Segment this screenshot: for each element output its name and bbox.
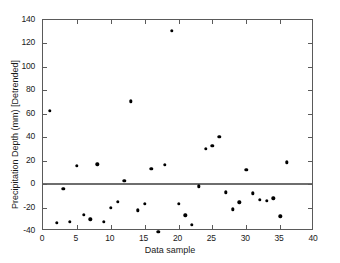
data-point: [184, 213, 187, 216]
data-point: [163, 163, 166, 166]
y-axis-tick: [43, 184, 47, 185]
x-axis-tick-label: 5: [74, 233, 79, 243]
data-point: [150, 167, 153, 170]
data-point: [75, 164, 78, 167]
data-point: [204, 147, 207, 150]
y-axis-tick-label: 120: [21, 37, 35, 47]
y-axis-tick-label: -20: [23, 202, 35, 212]
data-point: [231, 208, 234, 211]
y-axis-tick-label: 60: [26, 108, 35, 118]
data-point: [82, 213, 85, 216]
x-axis-tick-top: [145, 20, 146, 24]
x-axis-tick: [179, 225, 180, 229]
x-axis-tick: [77, 225, 78, 229]
y-axis-tick: [43, 208, 47, 209]
y-axis-tick-right: [308, 137, 312, 138]
x-axis-tick-label: 35: [275, 233, 284, 243]
y-axis-tick: [43, 137, 47, 138]
x-axis-tick: [280, 225, 281, 229]
y-axis-tick-right: [308, 43, 312, 44]
y-axis-tick: [43, 90, 47, 91]
data-point: [258, 198, 261, 201]
y-axis-tick-right: [308, 184, 312, 185]
x-axis-tick-top: [111, 20, 112, 24]
data-point: [224, 191, 227, 194]
y-axis-tick-right: [308, 208, 312, 209]
x-axis-tick-top: [212, 20, 213, 24]
y-axis-tick-right: [308, 90, 312, 91]
x-axis-tick-top: [179, 20, 180, 24]
x-axis-tick: [212, 225, 213, 229]
y-axis-tick-label: 140: [21, 14, 35, 24]
data-point: [95, 162, 98, 165]
data-point: [278, 215, 281, 218]
y-axis-tick-right: [308, 161, 312, 162]
data-point: [272, 196, 275, 199]
x-axis-tick: [246, 225, 247, 229]
data-point: [129, 100, 132, 103]
data-point: [123, 179, 126, 182]
data-point: [143, 202, 146, 205]
data-point: [251, 192, 254, 195]
y-axis-tick-label: 0: [30, 178, 35, 188]
zero-reference-line: [43, 183, 312, 185]
data-point: [211, 144, 214, 147]
x-axis-tick-label: 0: [40, 233, 45, 243]
y-axis-tick-right: [308, 114, 312, 115]
data-point: [136, 209, 139, 212]
data-point: [170, 29, 173, 32]
y-axis-tick-right: [308, 67, 312, 68]
y-axis-tick-label: -40: [23, 225, 35, 235]
data-point: [48, 109, 51, 112]
x-axis-tick: [145, 225, 146, 229]
x-axis-tick-label: 40: [308, 233, 317, 243]
x-axis-tick-label: 10: [105, 233, 114, 243]
x-axis-tick-label: 30: [241, 233, 250, 243]
x-axis-tick-label: 15: [139, 233, 148, 243]
y-axis-tick-label: 80: [26, 84, 35, 94]
data-point: [55, 221, 58, 224]
x-axis-tick-top: [77, 20, 78, 24]
x-axis-tick-top: [280, 20, 281, 24]
data-point: [245, 168, 248, 171]
y-axis-tick: [43, 67, 47, 68]
data-point: [197, 185, 200, 188]
plot-area: [42, 19, 313, 230]
x-axis-label: Data sample: [0, 245, 340, 255]
data-point: [89, 218, 92, 221]
data-point: [265, 199, 268, 202]
data-point: [62, 187, 65, 190]
data-point: [109, 206, 112, 209]
data-point: [156, 230, 159, 233]
data-point: [217, 135, 220, 138]
y-axis-tick-label: 20: [26, 155, 35, 165]
y-axis-tick: [43, 161, 47, 162]
y-axis-tick-label: 40: [26, 131, 35, 141]
y-axis-tick-label: 100: [21, 61, 35, 71]
x-axis-tick-top: [246, 20, 247, 24]
data-point: [238, 201, 241, 204]
x-axis-tick-label: 25: [207, 233, 216, 243]
data-point: [68, 220, 71, 223]
data-point: [190, 223, 193, 226]
data-point: [116, 200, 119, 203]
y-axis-tick: [43, 114, 47, 115]
x-axis-tick: [111, 225, 112, 229]
data-point: [177, 202, 180, 205]
y-axis-tick: [43, 43, 47, 44]
data-point: [102, 220, 105, 223]
y-axis-label: Precipitation Depth (mm) [Detrended]: [10, 60, 20, 209]
data-point: [285, 161, 288, 164]
x-axis-tick-label: 20: [173, 233, 182, 243]
scatter-chart-figure: Data sample Precipitation Depth (mm) [De…: [0, 0, 340, 263]
